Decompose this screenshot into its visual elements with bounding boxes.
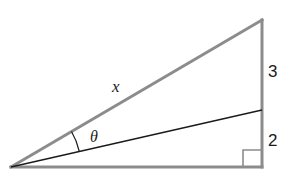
angle-arc (72, 132, 80, 152)
right-triangle-diagram: x θ 3 2 (0, 0, 296, 183)
right-angle-marker (243, 150, 262, 167)
inner-line (11, 110, 262, 167)
lower-segment-label: 2 (268, 131, 277, 150)
hypotenuse-label: x (111, 77, 120, 96)
angle-label: θ (90, 128, 98, 145)
upper-segment-label: 3 (268, 62, 277, 81)
hypotenuse-edge (11, 20, 262, 167)
